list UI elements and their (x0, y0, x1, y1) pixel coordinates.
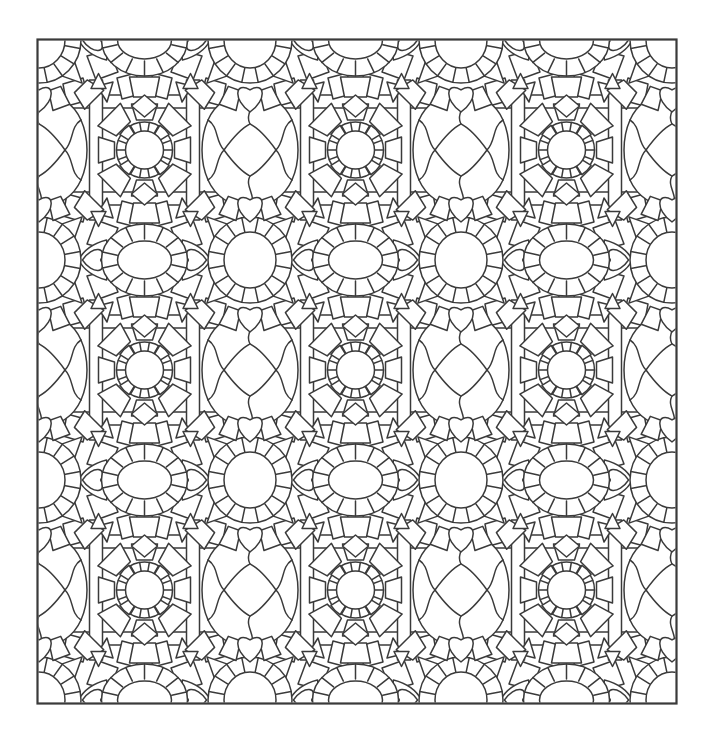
pattern-area (39, 41, 676, 703)
pattern-artwork (0, 0, 714, 733)
artwork-container (0, 0, 714, 733)
coloring-page (0, 0, 714, 733)
